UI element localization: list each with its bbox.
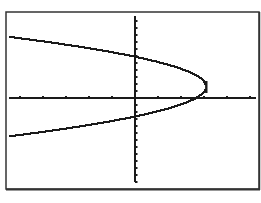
frame-border <box>6 12 259 189</box>
upper-branch <box>9 37 206 85</box>
parabola-plot <box>0 0 261 203</box>
calculator-graph-screen <box>0 0 261 203</box>
lower-branch <box>9 89 206 136</box>
parabola-curve <box>9 37 206 136</box>
screen-frame <box>6 12 260 190</box>
